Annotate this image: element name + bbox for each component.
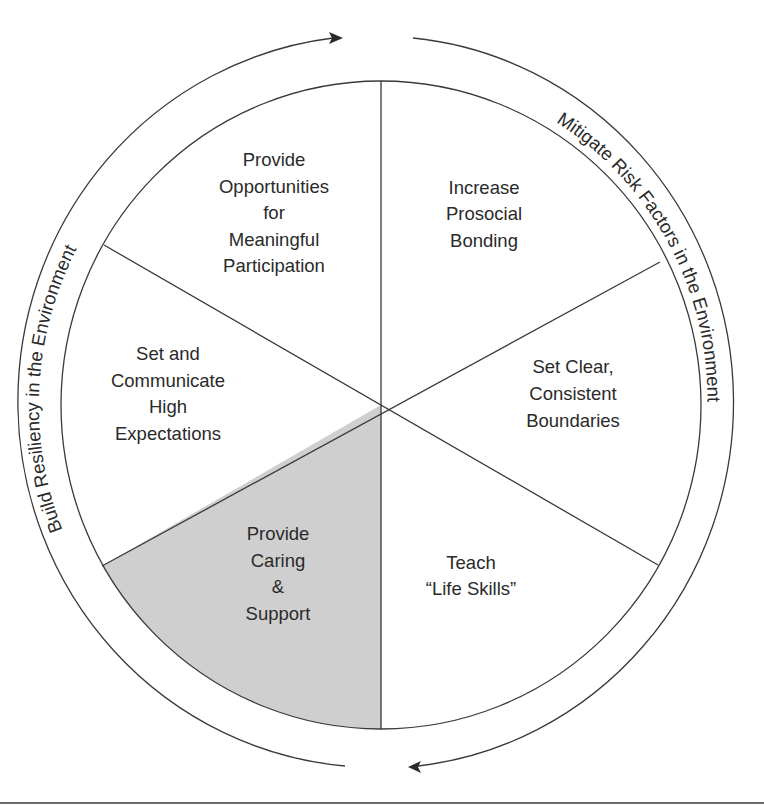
segment-label-line: Provide	[243, 149, 306, 170]
arrow-left-icon	[408, 761, 421, 773]
segment-top-left: Provide Opportunities for Meaningful Par…	[219, 149, 329, 276]
segment-bottom-right: Teach “Life Skills”	[426, 552, 516, 599]
segment-label-line: Support	[246, 603, 311, 624]
segment-label-line: Expectations	[115, 423, 221, 444]
segment-label-line: Boundaries	[526, 410, 620, 431]
segment-label-line: Prosocial	[446, 203, 522, 224]
segment-label-line: for	[263, 202, 285, 223]
segment-label-line: Opportunities	[219, 176, 329, 197]
segment-label-line: Teach	[446, 552, 495, 573]
ring-label-left: Build Resiliency in the Environment	[22, 241, 81, 536]
segment-label-line: Meaningful	[229, 229, 320, 250]
resiliency-wheel-diagram: Build Resiliency in the Environment Miti…	[0, 0, 764, 809]
segment-label-line: Participation	[223, 255, 325, 276]
segment-right: Set Clear, Consistent Boundaries	[526, 356, 620, 431]
segment-label-line: Communicate	[111, 370, 225, 391]
segment-label-line: Caring	[251, 550, 306, 571]
segment-label-line: Set Clear,	[532, 356, 613, 377]
ring-label-left-text: Build Resiliency in the Environment	[22, 241, 81, 536]
segment-label-line: &	[272, 576, 285, 597]
segment-label-line: Bonding	[450, 230, 518, 251]
segment-label-line: “Life Skills”	[426, 578, 516, 599]
segment-left: Set and Communicate High Expectations	[111, 343, 225, 444]
segment-label-line: Set and	[136, 343, 200, 364]
segment-label-line: Increase	[449, 177, 520, 198]
segment-label-line: High	[149, 396, 187, 417]
segment-top-right: Increase Prosocial Bonding	[446, 177, 522, 251]
segment-label-line: Consistent	[529, 383, 616, 404]
segment-label-line: Provide	[247, 523, 310, 544]
